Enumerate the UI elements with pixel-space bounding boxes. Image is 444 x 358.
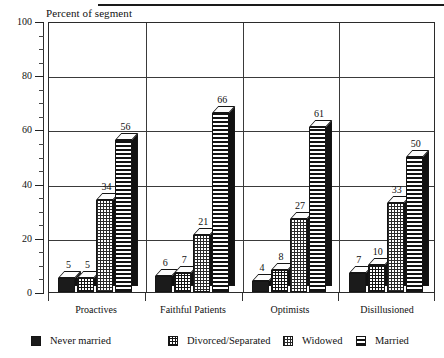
y-axis-tick-label: 60 (22, 125, 32, 135)
legend-item[interactable]: Widowed (283, 335, 342, 346)
y-axis-tick-label: 100 (17, 17, 32, 27)
x-axis-tick (242, 293, 243, 301)
bar-face (212, 113, 229, 292)
bar-face (155, 276, 172, 292)
y-axis-minor-tick (39, 36, 44, 37)
legend-item[interactable]: Never married (31, 335, 111, 346)
y-axis-minor-tick (39, 144, 44, 145)
bar: 5 (58, 271, 75, 292)
bar-face (406, 157, 423, 293)
bar-side-3d (132, 134, 138, 286)
bar-face (115, 140, 132, 292)
bar: 34 (96, 193, 113, 292)
bar-value-label: 56 (113, 122, 137, 132)
bar: 56 (115, 133, 132, 292)
bar-face (174, 273, 191, 292)
y-axis-minor-tick (39, 158, 44, 159)
group-divider (146, 23, 147, 292)
y-axis-tick-label: 0 (27, 288, 32, 298)
x-axis-category-row: ProactivesFaithful PatientsOptimistsDisi… (48, 293, 435, 319)
y-axis-minor-tick (39, 198, 44, 199)
x-axis-tick (145, 293, 146, 301)
bar-face (349, 273, 366, 292)
bar-face (252, 281, 269, 292)
bar-face (309, 127, 326, 292)
x-axis-category-label: Disillusioned (360, 304, 413, 315)
y-axis-tick-label: 40 (22, 180, 32, 190)
y-axis-major-tick (35, 239, 44, 240)
bar: 8 (271, 263, 288, 292)
legend-item[interactable]: Divorced/Separated (168, 335, 270, 346)
bar: 6 (155, 269, 172, 292)
y-axis-minor-tick (39, 90, 44, 91)
legend-item[interactable]: Married (356, 335, 409, 346)
bar-face (77, 278, 94, 292)
y-axis-minor-tick (39, 279, 44, 280)
y-axis-major-tick (35, 22, 44, 23)
y-axis-minor-tick (39, 266, 44, 267)
y-axis-major-tick (35, 130, 44, 131)
y-axis-tick-label: 80 (22, 71, 32, 81)
bar-value-label: 66 (210, 95, 234, 105)
legend-swatch-icon (168, 336, 178, 346)
y-axis-minor-tick (39, 103, 44, 104)
bar: 7 (349, 266, 366, 292)
bar-value-label: 50 (404, 139, 428, 149)
y-axis-minor-tick (39, 49, 44, 50)
top-divider-rule (98, 4, 444, 6)
x-axis-tick (434, 293, 435, 301)
bar-side-3d (326, 121, 332, 286)
bar: 5 (77, 271, 94, 292)
legend-label: Widowed (302, 335, 342, 346)
group-divider (339, 23, 340, 292)
bar-face (290, 219, 307, 292)
bar-face (58, 278, 75, 292)
y-axis-minor-tick (39, 225, 44, 226)
bar-value-label: 61 (307, 109, 331, 119)
bar: 33 (387, 196, 404, 292)
legend-swatch-icon (31, 336, 41, 346)
y-axis: 020406080100 (0, 22, 48, 293)
y-axis-tick-label: 20 (22, 234, 32, 244)
bar-side-3d (229, 107, 235, 286)
bar: 66 (212, 106, 229, 292)
bar: 7 (174, 266, 191, 292)
legend-label: Married (375, 335, 409, 346)
y-axis-major-tick (35, 185, 44, 186)
bar-face (387, 203, 404, 292)
chart-legend: Never marriedDivorced/SeparatedWidowedMa… (0, 333, 444, 355)
bar: 4 (252, 274, 269, 292)
bar-face (193, 235, 210, 292)
bar: 21 (193, 228, 210, 292)
x-axis-category-label: Faithful Patients (160, 304, 226, 315)
x-axis-tick (48, 293, 49, 301)
legend-label: Divorced/Separated (187, 335, 270, 346)
bar: 61 (309, 120, 326, 292)
x-axis-category-label: Optimists (271, 304, 310, 315)
y-axis-major-tick (35, 293, 44, 294)
y-axis-major-tick (35, 76, 44, 77)
bar: 10 (368, 258, 385, 292)
x-axis-category-label: Proactives (75, 304, 117, 315)
horizontal-gridline (49, 131, 434, 132)
y-axis-minor-tick (39, 252, 44, 253)
y-axis-minor-tick (39, 117, 44, 118)
y-axis-minor-tick (39, 171, 44, 172)
bar-face (271, 270, 288, 292)
group-divider (243, 23, 244, 292)
bar: 50 (406, 150, 423, 293)
legend-swatch-icon (356, 336, 366, 346)
bar-side-3d (423, 151, 429, 287)
bar: 27 (290, 212, 307, 292)
horizontal-gridline (49, 77, 434, 78)
bar-face (368, 265, 385, 292)
bar-face (96, 200, 113, 292)
legend-swatch-icon (283, 336, 293, 346)
plot-area: 5534566721664827617103350 (48, 22, 435, 293)
y-axis-minor-tick (39, 212, 44, 213)
y-axis-title: Percent of segment (46, 7, 132, 19)
y-axis-minor-tick (39, 63, 44, 64)
legend-label: Never married (50, 335, 111, 346)
x-axis-tick (338, 293, 339, 301)
